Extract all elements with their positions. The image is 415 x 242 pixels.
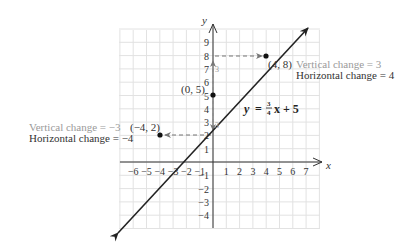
svg-text:3: 3 [267, 100, 271, 108]
y-axis-label: y [201, 14, 207, 26]
x-tick-label: −6 [128, 166, 139, 177]
y-tick-label: 1 [204, 144, 209, 155]
x-tick-label: 2 [237, 166, 242, 177]
y-tick-label: −4 [198, 210, 209, 221]
x-tick-label: 1 [224, 166, 229, 177]
x-tick-label: −4 [154, 166, 165, 177]
lower-horizontal-change: Horizontal change = −4 [29, 132, 134, 144]
x-axis-label: x [325, 159, 331, 171]
y-tick-label: 8 [204, 51, 209, 62]
y-tick-label: −1 [198, 170, 209, 181]
x-tick-label: 6 [290, 166, 295, 177]
slope-diagram: x y −6−5−4−3−2−11234567 123456789−1−2−3−… [0, 0, 415, 242]
point-label-4-8: (4, 8) [268, 58, 292, 71]
y-tick-label: 9 [204, 37, 209, 48]
y-tick-label: −2 [198, 184, 209, 195]
svg-text:x + 5: x + 5 [274, 102, 299, 116]
x-tick-label: −2 [181, 166, 192, 177]
rise-label-lower: 3 [215, 121, 219, 130]
x-tick-label: 5 [277, 166, 282, 177]
point-0-5 [210, 92, 215, 97]
svg-text:=: = [255, 102, 262, 116]
svg-text:4: 4 [267, 109, 271, 117]
point-label-0-5: (0, 5) [181, 83, 205, 96]
rise-label-upper: 3 [215, 65, 219, 74]
point-neg4-2 [157, 132, 162, 137]
y-tick-label: 3 [204, 117, 209, 128]
upper-horizontal-change: Horizontal change = 4 [296, 69, 395, 81]
x-tick-label: −3 [168, 166, 179, 177]
y-tick-label: 7 [204, 64, 209, 75]
point-label-neg4-2: (−4, 2) [130, 121, 160, 134]
svg-text:y: y [242, 102, 250, 116]
x-tick-label: −5 [141, 166, 152, 177]
x-tick-label: 3 [250, 166, 255, 177]
x-tick-label: 7 [304, 166, 309, 177]
x-tick-label: 4 [264, 166, 269, 177]
y-tick-label: 4 [204, 104, 209, 115]
y-tick-label: −3 [198, 197, 209, 208]
